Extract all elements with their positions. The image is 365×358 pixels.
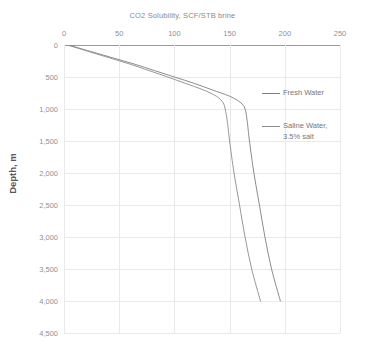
legend-label: Fresh Water (283, 88, 324, 99)
series-line (67, 45, 260, 301)
legend-entry[interactable]: Fresh Water (262, 88, 362, 99)
x-tick-label: 150 (223, 29, 236, 38)
chart-title: CO2 Solubility, SCF/STB brine (0, 11, 365, 20)
series-line (68, 45, 280, 301)
y-tick-label: 1,000 (14, 105, 58, 114)
y-tick-label: 2,500 (14, 201, 58, 210)
x-tick-label: 50 (115, 29, 123, 38)
legend-line-icon (262, 93, 280, 94)
x-tick-label: 100 (168, 29, 181, 38)
y-tick-label: 1,500 (14, 137, 58, 146)
chart-container: CO2 Solubility, SCF/STB brine 0501001502… (0, 0, 365, 358)
y-tick-label: 2,000 (14, 169, 58, 178)
y-tick-label: 4,500 (14, 329, 58, 338)
y-tick-label: 3,500 (14, 265, 58, 274)
y-tick-label: 3,000 (14, 233, 58, 242)
x-tick-label: 250 (334, 29, 347, 38)
y-tick-label: 4,000 (14, 297, 58, 306)
x-tick-label: 0 (62, 29, 66, 38)
y-tick-label: 0 (14, 41, 58, 50)
y-tick-label: 500 (14, 73, 58, 82)
horizontal-gridline (64, 333, 340, 334)
chart-legend: Fresh WaterSaline Water, 3.5% salt (262, 88, 362, 165)
x-tick-label: 200 (279, 29, 292, 38)
legend-label: Saline Water, 3.5% salt (283, 121, 327, 143)
legend-entry[interactable]: Saline Water, 3.5% salt (262, 121, 362, 143)
y-axis-label: Depth, m (7, 129, 18, 219)
legend-line-icon (262, 126, 280, 127)
